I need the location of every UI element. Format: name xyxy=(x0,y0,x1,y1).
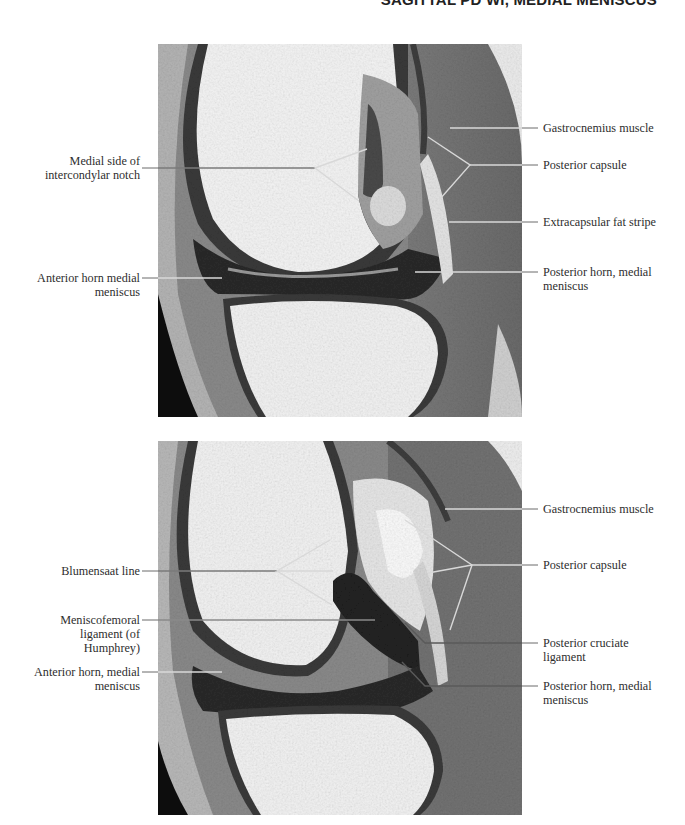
label-line: meniscus xyxy=(37,285,140,299)
label-line: Posterior cruciate xyxy=(543,636,629,650)
label-line: meniscus xyxy=(543,279,652,293)
mri-image-bottom xyxy=(158,441,522,815)
label-blumensaat-line: Blumensaat line xyxy=(61,564,140,578)
label-line: Blumensaat line xyxy=(61,564,140,578)
label-posterior-horn-medial-meniscus-top: Posterior horn, medial meniscus xyxy=(543,265,652,293)
page-header: SAGITTAL PD WI, MEDIAL MENISCUS xyxy=(381,0,657,8)
label-gastrocnemius-muscle-bottom: Gastrocnemius muscle xyxy=(543,502,654,516)
label-line: Posterior horn, medial xyxy=(543,265,652,279)
label-extracapsular-fat-stripe: Extracapsular fat stripe xyxy=(543,215,656,229)
label-anterior-horn-medial-meniscus-top: Anterior horn medial meniscus xyxy=(37,271,140,299)
label-medial-side-intercondylar-notch: Medial side of intercondylar notch xyxy=(45,154,140,182)
label-line: Medial side of xyxy=(45,154,140,168)
label-line: meniscus xyxy=(543,693,652,707)
label-line: Meniscofemoral xyxy=(60,613,140,627)
label-line: Humphrey) xyxy=(60,641,140,655)
mri-image-top xyxy=(158,44,522,417)
label-line: Gastrocnemius muscle xyxy=(543,121,654,135)
label-line: Posterior horn, medial xyxy=(543,679,652,693)
label-line: meniscus xyxy=(34,679,140,693)
label-posterior-cruciate-ligament: Posterior cruciate ligament xyxy=(543,636,629,664)
label-gastrocnemius-muscle-top: Gastrocnemius muscle xyxy=(543,121,654,135)
label-line: Posterior capsule xyxy=(543,158,627,172)
label-line: Anterior horn medial xyxy=(37,271,140,285)
label-line: ligament (of xyxy=(60,627,140,641)
label-line: Extracapsular fat stripe xyxy=(543,215,656,229)
label-line: Anterior horn, medial xyxy=(34,665,140,679)
label-posterior-capsule-top: Posterior capsule xyxy=(543,158,627,172)
label-anterior-horn-medial-meniscus-bottom: Anterior horn, medial meniscus xyxy=(34,665,140,693)
label-line: intercondylar notch xyxy=(45,168,140,182)
label-line: ligament xyxy=(543,650,629,664)
label-meniscofemoral-ligament: Meniscofemoral ligament (of Humphrey) xyxy=(60,613,140,655)
label-line: Posterior capsule xyxy=(543,558,627,572)
label-line: Gastrocnemius muscle xyxy=(543,502,654,516)
label-posterior-capsule-bottom: Posterior capsule xyxy=(543,558,627,572)
label-posterior-horn-medial-meniscus-bottom: Posterior horn, medial meniscus xyxy=(543,679,652,707)
